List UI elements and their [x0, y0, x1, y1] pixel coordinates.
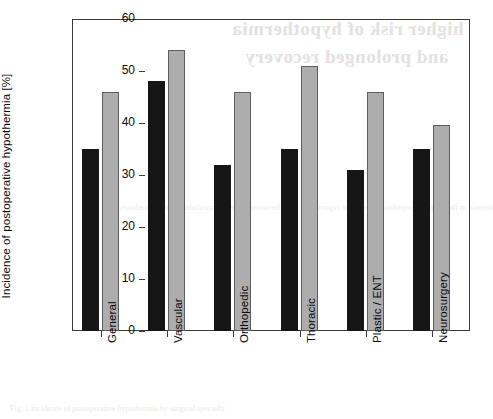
x-tick-mark [366, 331, 367, 337]
bars-layer [0, 0, 493, 419]
bar-general-black [82, 149, 99, 331]
bar-thoracic-black [281, 149, 298, 331]
bar-general-gray [102, 92, 119, 331]
x-tick-label-vascular: Vascular [172, 298, 184, 343]
bar-plastic-ent-black [347, 170, 364, 331]
bar-chart-figure: Incidence of postoperative hypothermia [… [0, 0, 493, 419]
bar-neurosurgery-black [413, 149, 430, 331]
x-tick-label-plastic-ent: Plastic / ENT [371, 275, 383, 343]
x-tick-mark [432, 331, 433, 337]
x-tick-mark [101, 331, 102, 337]
x-tick-mark [300, 331, 301, 337]
bar-thoracic-gray [301, 66, 318, 331]
x-tick-mark [167, 331, 168, 337]
bar-orthopedic-black [214, 165, 231, 331]
x-tick-label-general: General [106, 301, 118, 343]
x-tick-label-thoracic: Thoracic [305, 298, 317, 343]
x-tick-mark [233, 331, 234, 337]
bar-vascular-black [148, 81, 165, 331]
x-tick-label-orthopedic: Orthopedic [238, 286, 250, 343]
x-tick-label-neurosurgery: Neurosurgery [437, 272, 449, 343]
bar-vascular-gray [168, 50, 185, 331]
